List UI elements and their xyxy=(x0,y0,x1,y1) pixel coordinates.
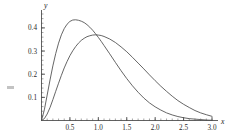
svg-text:0.1: 0.1 xyxy=(28,94,37,102)
svg-text:2.0: 2.0 xyxy=(151,124,160,132)
chart-canvas: 0.51.01.52.02.53.0 0.10.20.30.4 x y xyxy=(0,0,230,138)
y-axis-label: y xyxy=(43,1,48,10)
svg-text:0.3: 0.3 xyxy=(28,48,37,56)
data-curves xyxy=(42,20,213,121)
svg-text:0.5: 0.5 xyxy=(65,124,74,132)
svg-text:0.2: 0.2 xyxy=(28,71,37,79)
scan-artifact xyxy=(7,86,14,89)
svg-text:3.0: 3.0 xyxy=(208,124,217,132)
curve-path-curve-2 xyxy=(42,35,213,121)
x-axis-tick-labels: 0.51.01.52.02.53.0 xyxy=(65,124,216,132)
curve-path-curve-1 xyxy=(42,20,213,121)
svg-text:0.4: 0.4 xyxy=(28,24,37,32)
y-axis-major-ticks xyxy=(42,28,46,97)
svg-text:2.5: 2.5 xyxy=(179,124,188,132)
x-axis-label: x xyxy=(220,117,225,126)
svg-text:1.5: 1.5 xyxy=(122,124,131,132)
svg-text:1.0: 1.0 xyxy=(94,124,103,132)
y-axis-tick-labels: 0.10.20.30.4 xyxy=(28,24,37,101)
chart-figure: 0.51.01.52.02.53.0 0.10.20.30.4 x y xyxy=(0,0,230,138)
